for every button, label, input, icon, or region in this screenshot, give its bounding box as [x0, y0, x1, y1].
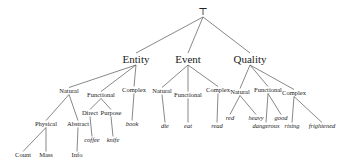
edge-quality-q-natural	[240, 65, 250, 89]
edge-entity-ent-natural	[69, 65, 136, 88]
node-eat: eat	[184, 123, 192, 130]
node-dangerous: dangerous	[252, 123, 279, 130]
node-quality: Quality	[234, 54, 267, 65]
node-count: Count	[15, 152, 31, 159]
node-ev-complex: Complex	[206, 87, 230, 94]
edge-root-entity	[136, 17, 203, 53]
node-coffee: coffee	[84, 137, 100, 144]
node-rising: rising	[284, 123, 299, 130]
node-purpose: Purpose	[101, 110, 122, 117]
node-ent-complex: Complex	[122, 87, 146, 94]
node-mass: Mass	[39, 152, 53, 159]
tree-edges	[0, 0, 350, 167]
node-good: good	[275, 115, 288, 122]
node-info: Info	[72, 152, 83, 159]
edge-abstract-info	[77, 128, 78, 152]
edge-ent-natural-abstract	[69, 95, 78, 121]
node-entity: Entity	[123, 54, 150, 65]
edge-purpose-knife	[111, 117, 113, 137]
edge-q-natural-heavy	[240, 96, 256, 115]
edge-root-event	[188, 17, 203, 53]
edge-root-quality	[203, 17, 250, 53]
node-frightened: frightened	[309, 123, 336, 130]
node-direct: Direct	[82, 110, 98, 117]
edge-q-complex-rising	[292, 97, 294, 123]
edge-event-ev-natural	[162, 65, 188, 88]
node-read: read	[211, 123, 223, 130]
node-red: red	[226, 115, 234, 122]
node-q-complex: Complex	[282, 90, 306, 97]
edge-quality-q-functional	[250, 65, 268, 87]
node-physical: Physical	[35, 121, 57, 128]
edge-q-natural-red	[230, 96, 240, 115]
edge-ev-natural-die	[162, 95, 165, 123]
edge-ent-natural-physical	[46, 95, 69, 121]
edge-q-functional-dangerous	[266, 94, 268, 123]
node-ent-functional: Functional	[87, 92, 115, 99]
edge-q-functional-good	[268, 94, 281, 115]
edge-event-ev-complex	[188, 65, 218, 87]
node-q-natural: Natural	[230, 89, 250, 96]
node-ev-functional: Functional	[174, 92, 202, 99]
node-heavy: heavy	[248, 115, 263, 122]
node-abstract: Abstract	[67, 121, 89, 128]
edge-direct-coffee	[90, 117, 92, 137]
edge-entity-ent-complex	[134, 65, 136, 87]
node-knife: knife	[107, 137, 120, 144]
edge-ev-complex-read	[217, 94, 218, 123]
edge-physical-count	[23, 128, 46, 152]
root-top-symbol: ⊤	[198, 7, 207, 17]
node-q-functional: Functional	[254, 87, 282, 94]
node-die: die	[161, 123, 169, 130]
node-event: Event	[175, 54, 201, 65]
node-book: book	[126, 121, 139, 128]
ontology-tree-diagram: ⊤ EntityEventQualityNaturalFunctionalCom…	[0, 0, 350, 167]
node-ent-natural: Natural	[59, 88, 79, 95]
edge-ent-complex-book	[132, 94, 134, 121]
edge-q-complex-frightened	[294, 97, 322, 123]
node-ev-natural: Natural	[152, 88, 172, 95]
